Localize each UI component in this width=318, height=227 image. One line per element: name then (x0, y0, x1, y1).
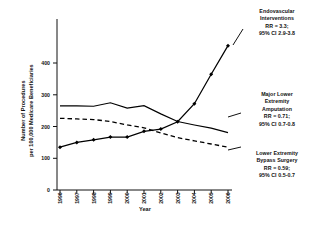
annotation-bypass-line-3: RR = 0.59; (238, 165, 316, 172)
y-tick-label-300: 300 (32, 92, 50, 98)
annotation-amputation-line-4: RR = 0.71; (238, 113, 316, 120)
y-axis-title: Number of Procedures per 100,000 Medicar… (20, 36, 35, 186)
annotation-bypass-line-1: Lower Extremity (238, 150, 316, 157)
annotation-endovascular-line-1: Endovascular (238, 8, 316, 15)
x-tick-label-2000: 2000 (124, 188, 130, 208)
data-point-endovascular-1998 (92, 138, 96, 142)
annotation-amputation-line-1: Major Lower (238, 91, 316, 98)
annotation-endovascular-line-3: RR = 3.3; (238, 23, 316, 30)
annotation-endovascular-line-4: 95% CI 2.9-3.8 (238, 30, 316, 37)
x-tick-label-2004: 2004 (191, 188, 197, 208)
x-tick-label-1998: 1998 (91, 188, 97, 208)
annotation-lower-extremity-bypass-surgery: Lower Extremity Bypass Surgery RR = 0.59… (238, 150, 316, 180)
y-axis-title-line-2: per 100,000 Medicare Beneficiaries (28, 36, 36, 186)
annotation-endovascular-interventions: Endovascular Interventions RR = 3.3; 95%… (238, 8, 316, 38)
data-point-endovascular-2002 (159, 127, 163, 131)
y-tick-label-0: 0 (32, 187, 50, 193)
annotation-amputation-line-5: 95% CI 0.7-0.8 (238, 121, 316, 128)
annotation-leader-lines (228, 29, 243, 150)
y-tick-label-200: 200 (32, 124, 50, 130)
y-tick-label-400: 400 (32, 60, 50, 66)
data-point-endovascular-1996 (58, 145, 62, 149)
y-axis-title-line-1: Number of Procedures (20, 36, 28, 186)
chart-figure: Number of Procedures per 100,000 Medicar… (0, 0, 318, 227)
data-point-endovascular-2001 (142, 129, 146, 133)
x-tick-label-1997: 1997 (74, 188, 80, 208)
annotation-bypass-line-4: 95% CI 0.5-0.7 (238, 172, 316, 179)
y-axis-ticks (53, 63, 57, 190)
annotation-amputation-line-3: Amputation (238, 106, 316, 113)
series-markers-endovascular-interventions (58, 44, 230, 150)
x-tick-label-2001: 2001 (141, 188, 147, 208)
x-tick-label-2005: 2005 (208, 188, 214, 208)
annotation-major-lower-extremity-amputation: Major Lower Extremity Amputation RR = 0.… (238, 91, 316, 128)
x-tick-label-2003: 2003 (175, 188, 181, 208)
x-tick-label-1996: 1996 (57, 188, 63, 208)
x-tick-label-2002: 2002 (158, 188, 164, 208)
data-point-endovascular-1999 (108, 135, 112, 139)
data-point-endovascular-2000 (125, 135, 129, 139)
annotation-bypass-line-2: Bypass Surgery (238, 157, 316, 164)
y-tick-label-100: 100 (32, 155, 50, 161)
annotation-endovascular-line-2: Interventions (238, 15, 316, 22)
x-tick-label-2006: 2006 (225, 188, 231, 208)
data-point-endovascular-1997 (75, 140, 79, 144)
data-series-group (58, 44, 230, 150)
annotation-amputation-line-2: Extremity (238, 98, 316, 105)
x-tick-label-1999: 1999 (107, 188, 113, 208)
